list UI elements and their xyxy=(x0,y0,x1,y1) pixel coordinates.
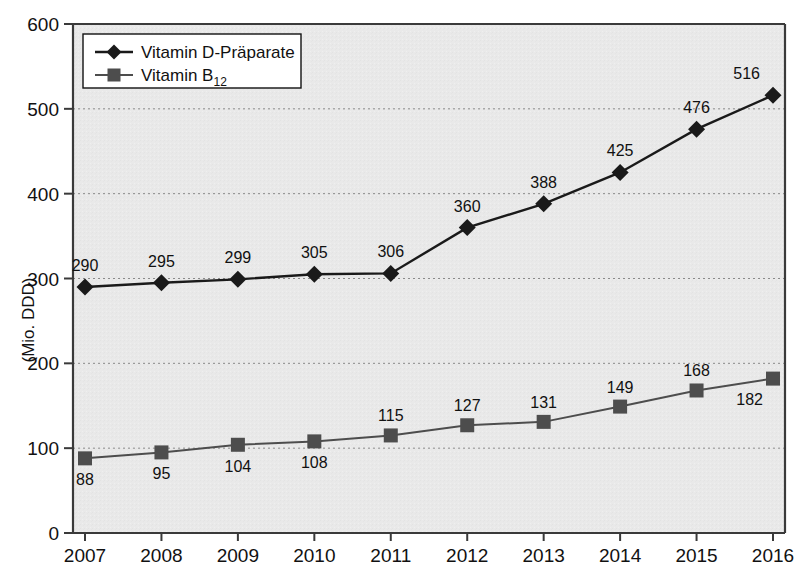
legend-label-series-2-subscript: 12 xyxy=(213,75,227,89)
data-point-label: 306 xyxy=(377,243,404,260)
data-point-label: 305 xyxy=(301,244,328,261)
data-point-marker xyxy=(766,372,780,386)
legend-label-series-1: Vitamin D-Präparate xyxy=(141,43,295,62)
data-point-label: 127 xyxy=(454,397,481,414)
data-point-label: 131 xyxy=(530,394,557,411)
data-point-marker xyxy=(690,383,704,397)
line-chart: 6005004003002001000 20072008200920102011… xyxy=(0,0,812,579)
data-point-label: 295 xyxy=(148,253,175,270)
data-point-label: 476 xyxy=(683,99,710,116)
data-point-marker xyxy=(384,428,398,442)
chart-legend: Vitamin D-Präparate Vitamin B12 xyxy=(83,34,301,89)
data-point-marker xyxy=(307,434,321,448)
x-axis-tick-label: 2010 xyxy=(293,545,335,566)
data-point-label: 290 xyxy=(72,257,99,274)
data-point-label: 299 xyxy=(225,249,252,266)
data-point-label: 115 xyxy=(378,407,404,424)
legend-label-series-2-base: Vitamin B xyxy=(141,66,213,85)
data-point-marker xyxy=(154,445,168,459)
y-axis-tick-label: 100 xyxy=(27,438,59,459)
data-point-marker xyxy=(460,418,474,432)
data-point-label: 104 xyxy=(225,458,252,475)
x-axis-tick-label: 2013 xyxy=(523,545,565,566)
chart-page: 6005004003002001000 20072008200920102011… xyxy=(0,0,812,579)
data-point-marker xyxy=(613,400,627,414)
x-axis-tick-label: 2011 xyxy=(370,545,411,566)
x-axis-tick-label: 2009 xyxy=(217,545,259,566)
square-marker-icon xyxy=(108,69,121,82)
data-point-label: 516 xyxy=(733,65,760,82)
data-point-label: 88 xyxy=(76,471,94,488)
x-axis: 2007200820092010201120122013201420152016 xyxy=(64,533,794,566)
data-point-label: 425 xyxy=(607,142,634,159)
data-point-label: 95 xyxy=(153,465,171,482)
y-axis-tick-label: 0 xyxy=(48,523,59,544)
x-axis-tick-label: 2012 xyxy=(446,545,488,566)
data-point-label: 182 xyxy=(736,391,763,408)
data-point-label: 149 xyxy=(607,379,634,396)
data-point-label: 168 xyxy=(683,362,710,379)
data-point-marker xyxy=(78,451,92,465)
data-point-label: 360 xyxy=(454,198,481,215)
y-axis-tick-label: 400 xyxy=(27,184,59,205)
x-axis-tick-label: 2014 xyxy=(599,545,642,566)
x-axis-tick-label: 2008 xyxy=(140,545,182,566)
data-point-marker xyxy=(537,415,551,429)
data-point-marker xyxy=(231,438,245,452)
y-axis-tick-label: 500 xyxy=(27,99,59,120)
x-axis-tick-label: 2007 xyxy=(64,545,106,566)
y-axis-tick-label: 600 xyxy=(27,14,59,35)
data-point-label: 108 xyxy=(301,454,328,471)
x-axis-tick-label: 2016 xyxy=(752,545,794,566)
x-axis-tick-label: 2015 xyxy=(675,545,717,566)
data-point-label: 388 xyxy=(530,174,557,191)
y-axis-title: (Mio. DDD) xyxy=(19,278,38,363)
